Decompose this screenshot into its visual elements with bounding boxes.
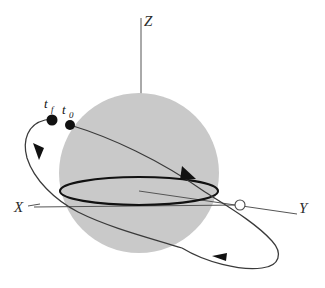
sphere-shape [59, 93, 219, 253]
initial-time-marker-dot [65, 120, 75, 130]
final-time-marker-dot [47, 115, 58, 126]
x-axis-label: X [13, 199, 24, 215]
final-time-label: t [44, 96, 48, 111]
orbit-diagram: Z X Y t f t 0 [0, 0, 325, 288]
x-axis-tick [28, 204, 40, 206]
initial-time-label: t [62, 102, 66, 117]
orbit-direction-arrowhead-left [33, 143, 44, 160]
initial-time-subscript: 0 [69, 110, 74, 120]
z-axis-label: Z [144, 13, 153, 29]
ascending-node-marker [235, 200, 245, 210]
orbit-direction-arrowhead-lower [212, 253, 227, 261]
y-axis-label: Y [299, 200, 309, 216]
final-time-subscript: f [51, 104, 55, 114]
figure-root: Z X Y t f t 0 [0, 0, 325, 288]
